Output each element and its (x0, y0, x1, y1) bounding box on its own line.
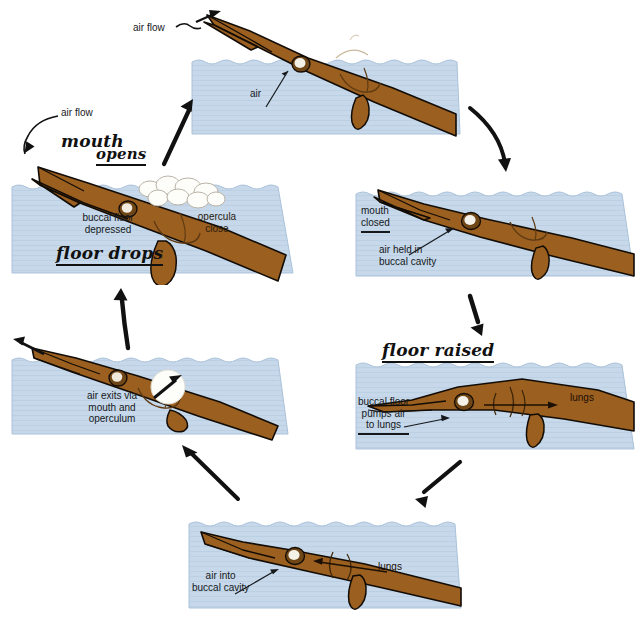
eye (109, 370, 127, 386)
panel6-hand-opens: opens (96, 145, 146, 166)
panel-air-exits (10, 330, 290, 442)
diagram-canvas: air (0, 0, 637, 622)
panel-mouth-closed (354, 180, 636, 285)
panel2-label-air-held: air held in buccal cavity (379, 244, 436, 267)
cycle-arrow-icon-4[interactable] (415, 462, 460, 508)
panel-surface-air-intake (188, 10, 466, 145)
panel6-hand-floor-drops: floor drops (56, 243, 163, 266)
left-label-air-flow: air flow (61, 107, 93, 119)
eye (292, 56, 310, 72)
panel4-label-lungs: lungs (378, 561, 402, 573)
air-flow-arrow-icon-left (23, 116, 58, 156)
panel6-label-opercula: opercula close (187, 211, 247, 234)
eye (455, 394, 474, 411)
cycle-arrow-icon-5[interactable] (182, 445, 238, 499)
panel1-label-air: air (250, 88, 261, 100)
panel4-label-air-into: air into buccal cavity (192, 570, 249, 593)
eye (286, 548, 305, 565)
eye (462, 213, 481, 230)
panel-air-into-buccal-cavity (187, 516, 463, 614)
panel3-hand-floor-raised: floor raised (382, 340, 494, 363)
bubble-cluster (139, 176, 225, 208)
cycle-arrow-icon-2[interactable] (470, 108, 511, 172)
panel3-label-lungs: lungs (570, 392, 594, 404)
cycle-arrow-icon-3[interactable] (470, 296, 484, 336)
air-flow-arrow-icon (20, 342, 44, 354)
top-label-air-flow: air flow (133, 22, 165, 34)
panel3-label-pumps: buccal floor pumps air to lungs (358, 396, 409, 435)
panel6-label-buccal-floor: buccal floor depressed (52, 212, 164, 235)
panel5-label-air-exits: air exits via mouth and operculum (52, 390, 172, 425)
panel2-label-mouth-closed: mouth closed (361, 205, 390, 233)
